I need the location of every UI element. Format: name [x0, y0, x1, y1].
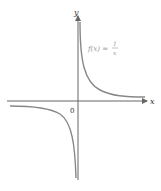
curve-negative-branch: [10, 106, 76, 178]
y-axis-label: y: [73, 8, 79, 17]
function-label-denominator: x: [113, 49, 117, 56]
x-axis-label: x: [150, 97, 155, 106]
origin-label: 0: [70, 107, 74, 115]
function-label-lhs: f(x) =: [87, 45, 108, 53]
function-label-numerator: 1: [113, 40, 117, 47]
chart: y x 0 f(x) = 1 x: [0, 0, 161, 191]
curve-positive-branch: [80, 22, 145, 97]
